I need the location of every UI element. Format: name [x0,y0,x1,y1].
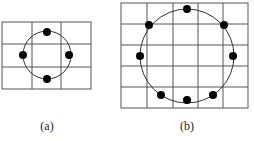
circle-b [140,9,234,103]
label-a: (a) [27,119,67,134]
circle-a [23,31,71,79]
dots-b [136,5,237,104]
dots-a [19,28,73,83]
label-b: (b) [167,119,207,134]
